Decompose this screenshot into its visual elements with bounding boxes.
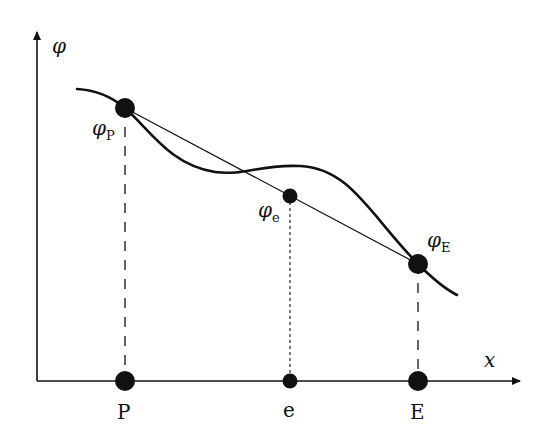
- diagram-canvas: [0, 0, 538, 445]
- phi-symbol: φ: [92, 116, 106, 140]
- node-e-axis-dot: [283, 374, 298, 389]
- phi-e-subscript: e: [272, 210, 280, 225]
- node-P-axis-dot: [115, 371, 135, 391]
- exact-curve: [77, 89, 457, 295]
- x-axis-label: x: [484, 350, 495, 370]
- phi-symbol: φ: [258, 198, 272, 222]
- y-axis-label: φ: [52, 36, 66, 56]
- phi-symbol: φ: [427, 228, 441, 252]
- node-P-value-dot: [115, 98, 135, 118]
- phi-E-subscript: E: [441, 240, 451, 255]
- node-e-label: e: [283, 400, 295, 420]
- node-P-label: P: [117, 402, 130, 422]
- phi-e-label: φe: [258, 200, 280, 220]
- phi-P-label: φP: [92, 118, 115, 138]
- node-E-label: E: [410, 402, 425, 422]
- node-e-value-dot: [283, 189, 298, 204]
- node-E-value-dot: [408, 254, 428, 274]
- linear-interpolation-line: [125, 108, 418, 264]
- phi-P-subscript: P: [106, 128, 115, 143]
- node-E-axis-dot: [408, 371, 428, 391]
- phi-E-label: φE: [427, 230, 451, 250]
